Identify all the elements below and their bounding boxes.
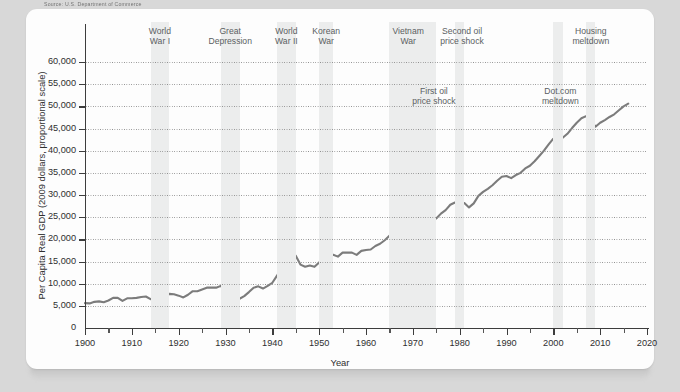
x-axis-minor-tick [108, 328, 109, 333]
y-axis-tick [79, 217, 86, 218]
x-axis-tick-label: 1930 [215, 338, 235, 348]
shaded-band [221, 22, 240, 328]
y-axis-title: Per Capita Real GDP (2009 dollars, propo… [36, 46, 47, 326]
x-axis-tick-label: 1960 [356, 338, 376, 348]
x-axis-tick [600, 328, 601, 335]
x-axis-minor-tick [343, 328, 344, 333]
y-axis-tick [79, 262, 86, 263]
shaded-band [277, 22, 296, 328]
shaded-band [553, 22, 562, 328]
gridline [85, 262, 647, 263]
x-axis-tick-label: 2020 [637, 338, 657, 348]
x-axis-minor-tick [155, 328, 156, 333]
y-axis-tick [79, 129, 86, 130]
x-axis-minor-tick [296, 328, 297, 333]
x-axis-minor-tick [436, 328, 437, 333]
shaded-band [586, 22, 595, 328]
band-annotation-label: Dot.com meltdown [518, 86, 602, 107]
gridline [85, 151, 647, 152]
x-axis-tick [647, 328, 648, 335]
y-axis-tick [79, 239, 86, 240]
chart-screenshot: Source: U.S. Department of Commerce 05,0… [0, 0, 680, 392]
gridline [85, 62, 647, 63]
gridline [85, 173, 647, 174]
x-axis-minor-tick [530, 328, 531, 333]
x-axis-tick [132, 328, 133, 335]
series-line-chart [0, 0, 680, 392]
y-axis-tick [79, 173, 86, 174]
x-axis-tick [366, 328, 367, 335]
x-axis-tick-label: 1970 [403, 338, 423, 348]
band-annotation-label: Housing meltdown [549, 26, 633, 47]
x-axis-tick-label: 1900 [75, 338, 95, 348]
y-axis-tick [79, 84, 86, 85]
gridline [85, 217, 647, 218]
y-axis-tick [79, 284, 86, 285]
shaded-band [427, 22, 436, 328]
x-axis-title: Year [0, 357, 680, 368]
band-annotation-label: First oil price shock [392, 86, 476, 107]
shaded-band [389, 22, 426, 328]
x-axis-tick [226, 328, 227, 335]
y-axis-tick [79, 62, 86, 63]
gridline [85, 306, 647, 307]
x-axis-minor-tick [483, 328, 484, 333]
x-axis-minor-tick [249, 328, 250, 333]
gridline [85, 195, 647, 196]
x-axis-tick [272, 328, 273, 335]
x-axis-tick [413, 328, 414, 335]
band-annotation-label: Second oil price shock [420, 26, 504, 47]
plot-area: 05,00010,00015,00020,00025,00030,00035,0… [0, 0, 680, 392]
shaded-band [319, 22, 333, 328]
y-axis-tick [79, 195, 86, 196]
x-axis-minor-tick [624, 328, 625, 333]
x-axis-tick [553, 328, 554, 335]
x-axis-tick-label: 2010 [590, 338, 610, 348]
x-axis-tick-label: 1910 [122, 338, 142, 348]
y-axis-tick [79, 306, 86, 307]
y-axis-line [85, 24, 86, 328]
x-axis-tick [179, 328, 180, 335]
x-axis-tick [460, 328, 461, 335]
x-axis-minor-tick [577, 328, 578, 333]
gridline [85, 84, 647, 85]
x-axis-minor-tick [202, 328, 203, 333]
band-annotation-label: Korean War [284, 26, 368, 47]
x-axis-tick-label: 1950 [309, 338, 329, 348]
x-axis-tick [85, 328, 86, 335]
gridline [85, 239, 647, 240]
x-axis-tick [319, 328, 320, 335]
x-axis-tick [507, 328, 508, 335]
x-axis-tick-label: 1940 [262, 338, 282, 348]
shaded-band [455, 22, 464, 328]
x-axis-tick-label: 1990 [496, 338, 516, 348]
y-axis-tick [79, 151, 86, 152]
shaded-band [151, 22, 170, 328]
x-axis-tick-label: 1920 [168, 338, 188, 348]
y-axis-tick [79, 106, 86, 107]
x-axis-minor-tick [389, 328, 390, 333]
x-axis-tick-label: 1980 [449, 338, 469, 348]
gridline [85, 284, 647, 285]
x-axis-tick-label: 2000 [543, 338, 563, 348]
gridline [85, 129, 647, 130]
